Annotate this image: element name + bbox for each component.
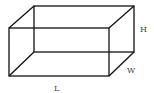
height-label: H [140,25,147,34]
cuboid-diagram: H W L [0,0,154,93]
edge-bottom-left [9,52,34,76]
length-label: L [54,84,60,93]
back-face [34,6,134,52]
edge-top-left [9,6,34,28]
width-label: W [127,66,136,75]
edge-top-right [109,6,134,28]
